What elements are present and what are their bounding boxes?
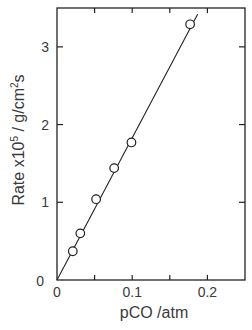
- y-tick-label: 0: [36, 273, 44, 289]
- x-axis-title: pCO /atm: [120, 304, 188, 321]
- chart: 00.10.2 0123 pCO /atm Rate x105 / g/cm2s: [0, 0, 252, 330]
- data-point: [68, 247, 77, 256]
- x-axis-ticks: 00.10.2: [53, 8, 217, 300]
- y-axis-title: Rate x105 / g/cm2s: [9, 74, 27, 205]
- x-tick-label: 0: [53, 284, 61, 300]
- y-tick-label: 3: [41, 39, 49, 55]
- fit-line-segment: [57, 14, 198, 280]
- data-point: [110, 164, 119, 173]
- data-point: [76, 229, 85, 238]
- x-tick-label: 0.2: [198, 284, 218, 300]
- x-tick-label: 0.1: [122, 284, 142, 300]
- data-point: [92, 195, 101, 204]
- fit-line: [57, 14, 198, 280]
- y-tick-label: 2: [41, 117, 49, 133]
- data-point: [186, 20, 195, 29]
- y-tick-label: 1: [41, 194, 49, 210]
- plot-frame: [57, 8, 245, 280]
- y-axis-ticks: 0123: [36, 39, 245, 289]
- data-point: [127, 138, 136, 147]
